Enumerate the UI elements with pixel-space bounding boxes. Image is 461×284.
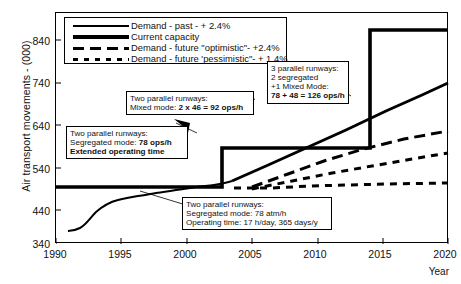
legend-label-current-capacity: Current capacity: [131, 32, 199, 42]
legend-label-optimistic: Demand - future "optimistic"- +2.4%: [131, 43, 280, 53]
legend-key-thick-icon: [69, 32, 131, 42]
legend-item-current-capacity: Current capacity: [69, 32, 282, 43]
callout-segregated-extended-line3: Extended operating time: [70, 147, 184, 156]
callout-segregated-extended-line2-prefix: Segregated mode:: [70, 138, 139, 147]
chart-legend: Demand - past - + 2.4% Current capacity …: [64, 17, 287, 64]
x-tick-label-2020: 2020: [423, 248, 461, 260]
y-tick-marks: [56, 40, 61, 210]
legend-item-optimistic: Demand - future "optimistic"- +2.4%: [69, 43, 282, 54]
callout-mixed-mode-line2: Mixed mode: 2 x 46 = 92 ops/h: [130, 103, 250, 112]
callout-segregated-extended-line2-value: 78 ops/h: [139, 138, 172, 147]
x-tick-label-2010: 2010: [293, 248, 337, 260]
x-axis-title: Year: [429, 266, 449, 277]
legend-key-short-dash-icon: [69, 54, 131, 64]
callout-segregated-base-line2: Segregated mode: 78 atm/h: [186, 209, 328, 218]
callout-three-runways-line2: 2 segregated: [271, 73, 345, 82]
callout-segregated-base-line1: Two parallel runways:: [186, 200, 328, 209]
legend-item-pessimistic: Demand - future 'pessimistic"- + 1.4%: [69, 54, 282, 65]
y-tick-label-440: 440: [16, 205, 50, 217]
callout-three-runways-line4: 78 + 48 = 126 ops/h: [271, 91, 345, 100]
callout-segregated-extended-line1: Two parallel runways:: [70, 129, 184, 138]
callout-mixed-mode-line2-prefix: Mixed mode:: [130, 103, 179, 112]
y-tick-label-540: 540: [16, 163, 50, 175]
y-tick-label-840: 840: [16, 35, 50, 47]
y-tick-label-740: 740: [16, 77, 50, 89]
callout-segregated-base-line3: Operating time: 17 h/day, 365 days/y: [186, 218, 328, 227]
callout-segregated-base: Two parallel runways: Segregated mode: 7…: [182, 197, 332, 230]
x-tick-label-2015: 2015: [358, 248, 402, 260]
y-tick-label-640: 640: [16, 120, 50, 132]
callout-mixed-mode-line2-value: 2 x 46 = 92 ops/h: [179, 103, 244, 112]
callout-three-runways: 3 parallel runways: 2 segregated +1 Mixe…: [267, 61, 349, 104]
legend-key-solid-icon: [69, 21, 131, 31]
legend-label-demand-past: Demand - past - + 2.4%: [131, 21, 230, 31]
x-tick-label-1995: 1995: [98, 248, 142, 260]
x-tick-label-2005: 2005: [228, 248, 272, 260]
callout-mixed-mode: Two parallel runways: Mixed mode: 2 x 46…: [126, 91, 254, 115]
legend-key-long-dash-icon: [69, 43, 131, 53]
callout-three-runways-line3: +1 Mixed Mode:: [271, 82, 345, 91]
x-tick-marks: [56, 238, 448, 244]
callout-three-runways-line1: 3 parallel runways:: [271, 64, 345, 73]
legend-item-demand-past: Demand - past - + 2.4%: [69, 21, 282, 32]
x-tick-label-2000: 2000: [163, 248, 207, 260]
callout-segregated-extended: Two parallel runways: Segregated mode: 7…: [66, 126, 188, 159]
callout-segregated-extended-line2: Segregated mode: 78 ops/h: [70, 138, 184, 147]
legend-label-pessimistic: Demand - future 'pessimistic"- + 1.4%: [131, 54, 287, 64]
x-tick-label-1990: 1990: [33, 248, 77, 260]
callout-mixed-mode-line1: Two parallel runways:: [130, 94, 250, 103]
